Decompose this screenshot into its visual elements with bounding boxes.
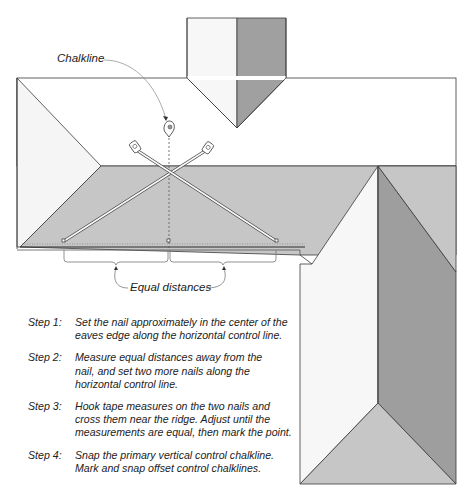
step-number: Step 3:	[28, 400, 75, 440]
step-text: Measure equal distances away from the na…	[75, 351, 308, 391]
step-1: Step 1: Set the nail approximately in th…	[28, 316, 308, 342]
step-number: Step 4:	[28, 449, 75, 475]
chalkline-label: Chalkline	[57, 52, 104, 64]
equal-distances-label: Equal distances	[130, 281, 211, 293]
step-line: horizontal control line.	[75, 378, 178, 390]
nail-center	[167, 239, 170, 242]
step-number: Step 2:	[28, 351, 75, 391]
step-text: Hook tape measures on the two nails and …	[75, 400, 308, 440]
step-line: measurements are equal, then mark the po…	[75, 426, 292, 438]
step-line: Measure equal distances away from the	[75, 351, 262, 363]
steps-list: Step 1: Set the nail approximately in th…	[28, 316, 308, 484]
step-text: Set the nail approximately in the center…	[75, 316, 308, 342]
step-3: Step 3: Hook tape measures on the two na…	[28, 400, 308, 440]
nail-left	[62, 239, 65, 242]
step-line: Set the nail approximately in the center…	[75, 316, 288, 328]
step-line: nail, and set two more nails along the	[75, 365, 250, 377]
step-line: Hook tape measures on the two nails and	[75, 400, 270, 412]
step-2: Step 2: Measure equal distances away fro…	[28, 351, 308, 391]
step-line: Snap the primary vertical control chalkl…	[75, 449, 274, 461]
step-4: Step 4: Snap the primary vertical contro…	[28, 449, 308, 475]
step-line: cross them near the ridge. Adjust until …	[75, 413, 270, 425]
step-number: Step 1:	[28, 316, 75, 342]
step-text: Snap the primary vertical control chalkl…	[75, 449, 308, 475]
step-line: eaves edge along the horizontal control …	[75, 329, 282, 341]
nail-right	[275, 239, 278, 242]
step-line: Mark and snap offset control chalklines.	[75, 462, 261, 474]
